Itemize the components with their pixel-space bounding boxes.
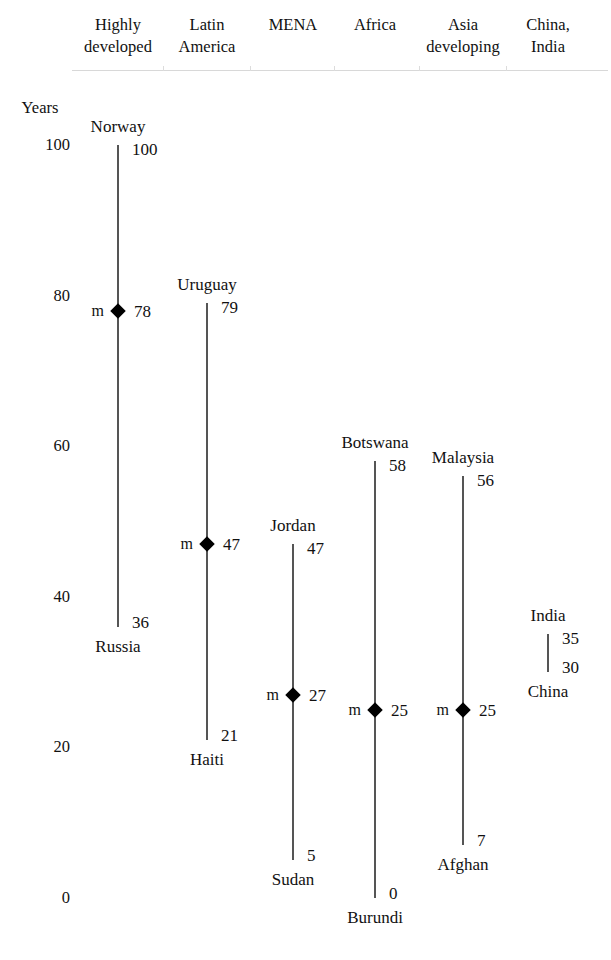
min-value-label-china-india: 30: [562, 659, 579, 676]
median-value-label-africa: 25: [391, 701, 408, 718]
median-value-label-highly-developed: 78: [134, 302, 151, 319]
y-tick-label-80: 80: [0, 286, 70, 306]
min-value-label-latin-america: 21: [221, 726, 238, 743]
y-tick-label-0: 0: [0, 888, 70, 908]
max-value-label-latin-america: 79: [221, 299, 238, 316]
median-marker-letter-latin-america: m: [181, 535, 193, 553]
median-marker-letter-highly-developed: m: [92, 302, 104, 320]
max-country-label-africa: Botswana: [341, 434, 408, 451]
header-tick: [506, 66, 507, 71]
max-value-label-asia-developing: 56: [477, 472, 494, 489]
max-country-label-asia-developing: Malaysia: [432, 449, 494, 466]
y-tick-label-40: 40: [0, 587, 70, 607]
header-tick: [419, 66, 420, 71]
median-marker-asia-developing: [455, 702, 471, 718]
median-marker-africa: [367, 702, 383, 718]
range-line-asia-developing: [462, 476, 463, 845]
median-marker-highly-developed: [110, 303, 126, 319]
max-value-label-china-india: 35: [562, 630, 579, 647]
median-marker-mena: [285, 687, 301, 703]
max-country-label-highly-developed: Norway: [91, 118, 146, 135]
y-tick-label-100: 100: [0, 135, 70, 155]
median-value-label-asia-developing: 25: [479, 701, 496, 718]
y-tick-label-60: 60: [0, 436, 70, 456]
median-marker-latin-america: [199, 536, 215, 552]
min-value-label-highly-developed: 36: [132, 613, 149, 630]
header-tick: [334, 66, 335, 71]
min-country-label-china-india: China: [528, 683, 569, 700]
header-tick: [250, 66, 251, 71]
range-line-africa: [374, 461, 375, 898]
column-header-china-india: China, India: [496, 14, 600, 58]
max-country-label-latin-america: Uruguay: [177, 276, 236, 293]
median-marker-letter-asia-developing: m: [437, 701, 449, 719]
min-country-label-asia-developing: Afghan: [438, 856, 489, 873]
max-value-label-mena: 47: [307, 540, 324, 557]
range-line-china-india: [547, 634, 548, 672]
range-line-highly-developed: [117, 145, 118, 627]
max-value-label-africa: 58: [389, 457, 406, 474]
min-country-label-mena: Sudan: [272, 871, 315, 888]
min-country-label-highly-developed: Russia: [95, 637, 140, 654]
y-tick-label-20: 20: [0, 737, 70, 757]
max-country-label-china-india: India: [531, 607, 566, 624]
range-line-latin-america: [206, 303, 207, 740]
median-value-label-latin-america: 47: [223, 536, 240, 553]
median-marker-letter-mena: m: [267, 686, 279, 704]
max-country-label-mena: Jordan: [270, 517, 315, 534]
header-tick: [163, 66, 164, 71]
min-value-label-mena: 5: [307, 847, 316, 864]
min-value-label-africa: 0: [389, 885, 398, 902]
y-axis-title: Years: [8, 98, 72, 118]
range-chart: Highly developedLatin AmericaMENAAfricaA…: [0, 0, 611, 960]
min-country-label-africa: Burundi: [347, 909, 403, 926]
max-value-label-highly-developed: 100: [132, 141, 158, 158]
median-marker-letter-africa: m: [349, 701, 361, 719]
median-value-label-mena: 27: [309, 686, 326, 703]
header-rule: [72, 70, 608, 71]
min-value-label-asia-developing: 7: [477, 832, 486, 849]
min-country-label-latin-america: Haiti: [190, 750, 224, 767]
